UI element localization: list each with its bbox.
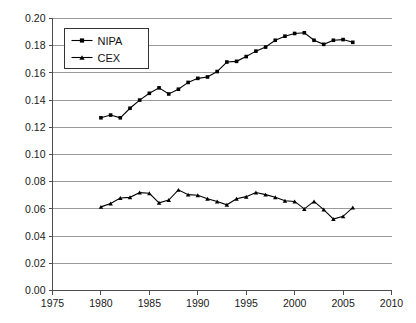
x-tick-label: 2005	[331, 297, 355, 309]
data-point-square-marker	[215, 70, 219, 74]
data-point-square-marker	[196, 77, 200, 81]
y-tick-label: 0.08	[25, 175, 46, 187]
x-tick-label: 1975	[41, 297, 65, 309]
data-point-triangle-marker	[176, 188, 181, 192]
y-tick-label: 0.14	[25, 94, 46, 106]
data-point-square-marker	[99, 116, 103, 120]
y-tick-label: 0.00	[25, 284, 46, 296]
y-tick-label: 0.02	[25, 257, 46, 269]
y-tick-marks	[49, 19, 53, 291]
data-point-square-marker	[167, 92, 171, 96]
y-tick-labels: 0.000.020.040.060.080.100.120.140.160.18…	[25, 12, 46, 296]
y-tick-label: 0.16	[25, 67, 46, 79]
data-point-square-marker	[186, 81, 190, 85]
y-tick-label: 0.04	[25, 230, 46, 242]
data-point-square-marker	[341, 38, 345, 42]
y-tick-label: 0.06	[25, 203, 46, 215]
data-point-square-marker	[332, 38, 336, 42]
data-point-triangle-marker	[351, 206, 356, 210]
data-point-square-marker	[303, 31, 307, 35]
data-point-square-marker	[293, 32, 297, 36]
data-point-square-marker	[264, 45, 268, 49]
x-tick-label: 2010	[380, 297, 404, 309]
data-point-square-marker	[235, 60, 239, 64]
data-point-square-marker	[312, 38, 316, 42]
y-tick-label: 0.20	[25, 12, 46, 24]
x-tick-label: 1990	[186, 297, 210, 309]
data-point-square-marker	[148, 92, 152, 96]
y-tick-label: 0.18	[25, 39, 46, 51]
data-point-square-marker	[254, 49, 258, 53]
x-tick-label: 1985	[138, 297, 162, 309]
legend-label-nipa: NIPA	[98, 35, 124, 47]
chart-legend: NIPACEX	[65, 29, 149, 69]
y-tick-label: 0.10	[25, 148, 46, 160]
x-tick-label: 1980	[89, 297, 113, 309]
data-point-square-marker	[128, 106, 132, 110]
x-tick-label: 2000	[283, 297, 307, 309]
data-point-square-marker	[322, 43, 326, 47]
x-tick-marks	[53, 291, 392, 295]
data-point-square-marker	[138, 98, 142, 102]
data-point-square-marker	[351, 41, 355, 45]
data-point-square-marker	[225, 60, 229, 64]
x-tick-labels: 19751980198519901995200020052010	[41, 297, 404, 309]
data-point-square-marker	[273, 38, 277, 42]
data-point-square-marker	[177, 87, 181, 91]
data-point-square-marker	[80, 38, 84, 42]
legend-label-cex: CEX	[98, 52, 121, 64]
data-point-square-marker	[244, 55, 248, 59]
chart-container: 19751980198519901995200020052010 0.000.0…	[0, 0, 416, 323]
data-point-triangle-marker	[312, 199, 317, 203]
x-tick-label: 1995	[235, 297, 259, 309]
y-tick-label: 0.12	[25, 121, 46, 133]
data-point-square-marker	[119, 116, 123, 120]
data-point-square-marker	[283, 34, 287, 38]
data-point-square-marker	[157, 86, 161, 90]
series-cex	[99, 188, 355, 221]
data-point-square-marker	[206, 75, 210, 79]
line-chart: 19751980198519901995200020052010 0.000.0…	[0, 0, 416, 323]
data-point-square-marker	[109, 113, 113, 117]
